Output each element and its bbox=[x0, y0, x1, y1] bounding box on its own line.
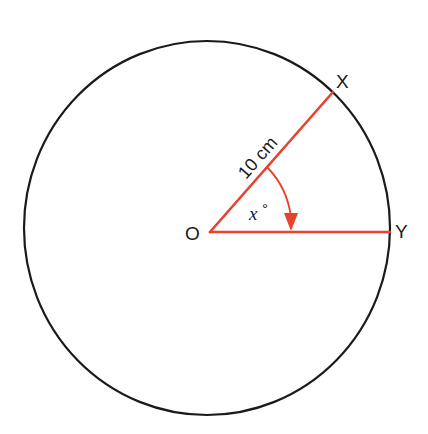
angle-arrowhead-icon bbox=[284, 213, 298, 231]
label-center-o: O bbox=[185, 223, 200, 244]
label-point-y: Y bbox=[395, 221, 408, 242]
circle-outline bbox=[24, 41, 390, 415]
angle-variable-label: x bbox=[248, 203, 258, 224]
degree-symbol: ° bbox=[262, 200, 268, 217]
angle-arc bbox=[267, 167, 291, 218]
radius-line-ox bbox=[210, 92, 333, 232]
circle-diagram: O X Y 10 cm x ° bbox=[0, 0, 428, 434]
label-point-x: X bbox=[336, 71, 349, 92]
